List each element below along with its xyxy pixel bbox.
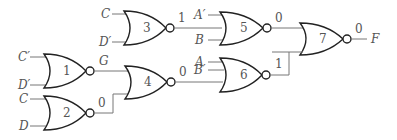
nor-gate-1: C′ D′ 1 G bbox=[17, 50, 129, 92]
gate-1-input-2: D′ bbox=[17, 78, 31, 92]
gate-3-input-2: D′ bbox=[98, 35, 112, 49]
gate-5-input-2: B bbox=[194, 33, 204, 47]
gate-3-input-1: C bbox=[101, 7, 110, 21]
gate-6-input-2: B′ bbox=[193, 63, 206, 77]
gate-2-output: 0 bbox=[98, 96, 106, 110]
gate-2-input-2: D bbox=[18, 119, 29, 133]
gate-3-output: 1 bbox=[178, 11, 186, 25]
gate-4-output: 0 bbox=[179, 65, 187, 79]
gate-1-output: G bbox=[99, 54, 109, 68]
gate-6-number: 6 bbox=[240, 68, 248, 82]
gate-3-number: 3 bbox=[143, 21, 151, 35]
gate-1-number: 1 bbox=[63, 64, 71, 78]
gate-5-output: 0 bbox=[275, 11, 283, 25]
gate-1-input-1: C′ bbox=[18, 50, 30, 64]
gate-2-number: 2 bbox=[63, 106, 71, 120]
gate-5-input-1: A′ bbox=[193, 8, 206, 22]
gate-5-number: 5 bbox=[240, 21, 248, 35]
gate-6-output: 1 bbox=[275, 57, 283, 71]
output-f-label: F bbox=[370, 32, 380, 46]
logic-circuit-diagram: C D′ 3 1 A′ B 5 0 7 0 F C′ D′ 1 G bbox=[0, 0, 397, 140]
gate-7-number: 7 bbox=[319, 32, 327, 46]
gate-2-input-1: C bbox=[19, 92, 28, 106]
nor-gate-7: 7 0 F bbox=[272, 22, 380, 55]
nor-gate-2: C D 2 0 bbox=[18, 92, 129, 133]
nor-gate-6: A B′ 6 1 bbox=[193, 52, 289, 92]
gate-7-output: 0 bbox=[355, 22, 363, 36]
gate-4-number: 4 bbox=[144, 75, 152, 89]
